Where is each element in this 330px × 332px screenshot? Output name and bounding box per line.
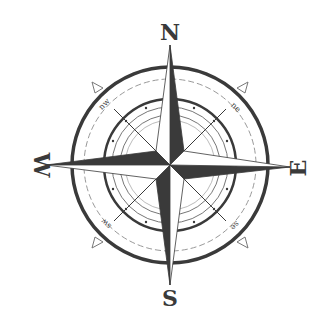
- label-north: N: [160, 19, 180, 45]
- label-south: S: [162, 285, 178, 311]
- cardinal-points: [46, 45, 290, 285]
- label-southeast: se: [228, 219, 241, 232]
- label-southwest: sw: [99, 217, 113, 231]
- label-northeast: ne: [229, 101, 243, 115]
- label-west: W: [29, 152, 55, 178]
- compass-rose: N S W E nw ne sw se: [0, 0, 330, 332]
- label-east: E: [285, 160, 311, 177]
